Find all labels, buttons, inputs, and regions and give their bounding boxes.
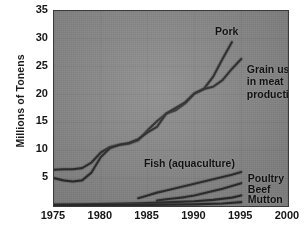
y-tick-25: 25 [24, 59, 48, 71]
annotation-in-meat: in meat [247, 76, 284, 88]
y-tick-20: 20 [24, 87, 48, 99]
y-tick-35: 35 [24, 3, 48, 15]
x-tick-2000: 2000 [267, 209, 307, 221]
x-tick-1980: 1980 [80, 209, 120, 221]
annotation-grain-used: Grain used [247, 64, 289, 76]
x-tick-1990: 1990 [173, 209, 213, 221]
x-axis-tick-labels: 197519801985199019952000 [0, 209, 307, 229]
annotation-pork: Pork [215, 26, 238, 38]
y-tick-15: 15 [24, 114, 48, 126]
y-tick-5: 5 [24, 170, 48, 182]
chart-figure: Millions of Tonens 5101520253035 PorkGra… [0, 0, 307, 240]
annotation-mutton: Mutton [248, 194, 283, 206]
y-tick-30: 30 [24, 31, 48, 43]
plot-area: PorkGrain usedin meatproductionFish (aqu… [53, 10, 289, 207]
series-line-pork [54, 42, 232, 170]
annotation-production: production [247, 89, 289, 101]
x-tick-1975: 1975 [33, 209, 73, 221]
x-tick-1995: 1995 [220, 209, 260, 221]
x-tick-1985: 1985 [127, 209, 167, 221]
y-tick-10: 10 [24, 142, 48, 154]
annotation-fish-aquaculture: Fish (aquaculture) [144, 158, 235, 170]
y-axis-tick-labels: 5101520253035 [22, 0, 48, 240]
